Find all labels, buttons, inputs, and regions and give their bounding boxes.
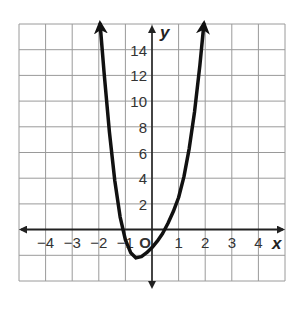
polynomial-graph: −4−3−2−112342468101214Oxy — [0, 0, 304, 309]
y-tick-label: 2 — [139, 196, 147, 213]
y-tick-label: 10 — [130, 93, 147, 110]
x-tick-label: 2 — [201, 234, 209, 251]
y-axis-label: y — [159, 23, 171, 42]
x-axis-label: x — [271, 234, 283, 253]
y-tick-label: 6 — [139, 145, 147, 162]
x-tick-label: −2 — [90, 234, 107, 251]
x-tick-label: 3 — [228, 234, 236, 251]
y-tick-label: 14 — [130, 42, 147, 59]
x-tick-label: 4 — [254, 234, 262, 251]
x-tick-label: −3 — [64, 234, 81, 251]
y-tick-label: 4 — [139, 170, 147, 187]
y-tick-label: 8 — [139, 119, 147, 136]
y-tick-label: 12 — [130, 67, 147, 84]
x-tick-label: −4 — [37, 234, 54, 251]
x-tick-label: 1 — [174, 234, 182, 251]
tick-labels: −4−3−2−112342468101214Oxy — [37, 23, 283, 253]
